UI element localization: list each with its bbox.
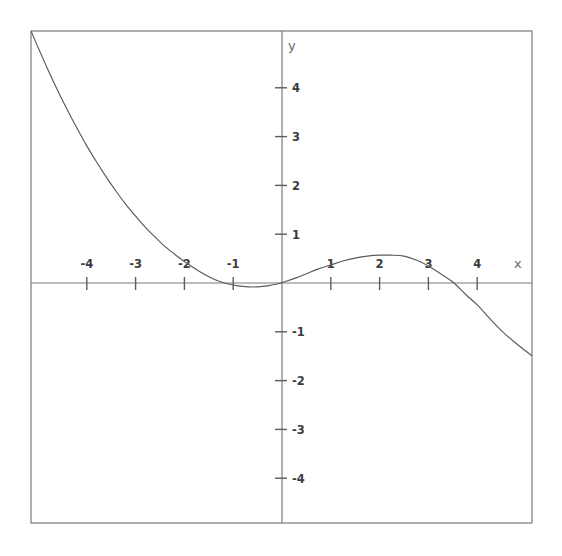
- y-tick-label-2: 2: [292, 179, 300, 193]
- y-tick-label-1: 1: [292, 228, 300, 242]
- x-tick-label--1: -1: [227, 257, 240, 271]
- x-axis-label: x: [514, 256, 522, 271]
- function-plot-svg: -4-3-2-11234 -4-3-2-11234 x y: [0, 0, 562, 556]
- x-tick-label-4: 4: [473, 257, 481, 271]
- x-tick-label--4: -4: [80, 257, 93, 271]
- x-tick-label--3: -3: [129, 257, 142, 271]
- y-tick-label--1: -1: [292, 325, 305, 339]
- y-tick-label--4: -4: [292, 472, 305, 486]
- y-tick-label-3: 3: [292, 130, 300, 144]
- y-tick-label-4: 4: [292, 81, 300, 95]
- chart-container: -4-3-2-11234 -4-3-2-11234 x y: [0, 0, 562, 556]
- y-axis-label: y: [288, 38, 296, 53]
- y-tick-label--3: -3: [292, 423, 305, 437]
- y-tick-label--2: -2: [292, 374, 305, 388]
- x-axis-tick-label-group: -4-3-2-11234: [80, 257, 481, 271]
- x-tick-label-2: 2: [376, 257, 384, 271]
